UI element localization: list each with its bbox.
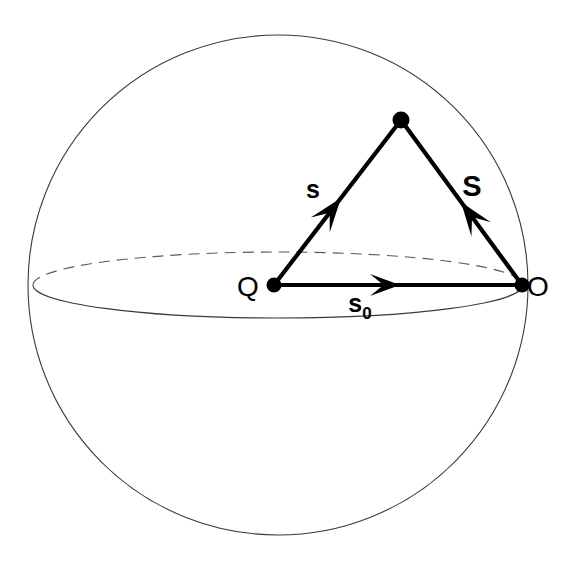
point-o-label: O <box>527 271 549 302</box>
vector-s0 <box>274 274 522 296</box>
sphere-vector-diagram: Q O s S s0 <box>0 0 574 575</box>
vector-s-label: s <box>306 175 320 203</box>
vector-S-label: S <box>462 170 481 202</box>
vector-S <box>401 120 522 285</box>
vector-s0-label: s0 <box>348 289 371 323</box>
point-q-dot <box>267 278 282 293</box>
point-apex-dot <box>393 112 410 129</box>
vector-s0-label-subscript: 0 <box>362 304 371 323</box>
vector-s <box>274 120 401 285</box>
figure-canvas: Q O s S s0 <box>0 0 574 575</box>
point-q-label: Q <box>237 271 259 302</box>
vector-s0-label-base: s <box>348 289 362 317</box>
